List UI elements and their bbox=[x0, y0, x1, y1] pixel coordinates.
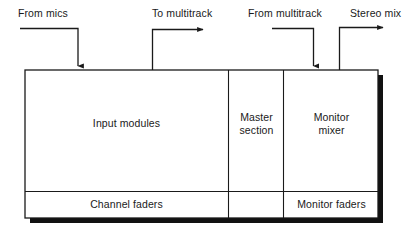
block-label-master-section: Master section bbox=[229, 111, 284, 137]
flow-label-from-multitrack: From multitrack bbox=[248, 7, 322, 19]
arrow-from-mics bbox=[20, 29, 78, 67]
flow-label-from-mics: From mics bbox=[18, 7, 68, 19]
diagram-canvas: From mics To multitrack From multitrack … bbox=[0, 0, 410, 235]
arrow-from-multitrack bbox=[272, 29, 314, 67]
flow-label-stereo-mix: Stereo mix bbox=[350, 7, 401, 19]
block-label-monitor-faders: Monitor faders bbox=[285, 198, 378, 211]
block-label-channel-faders: Channel faders bbox=[25, 198, 228, 211]
block-label-monitor-mixer: Monitor mixer bbox=[285, 111, 378, 137]
arrow-stereo-mix bbox=[340, 28, 384, 71]
block-label-input-modules: Input modules bbox=[25, 117, 228, 130]
console-outline bbox=[25, 70, 378, 218]
arrow-to-multitrack bbox=[153, 30, 204, 71]
flow-label-to-multitrack: To multitrack bbox=[152, 7, 212, 19]
